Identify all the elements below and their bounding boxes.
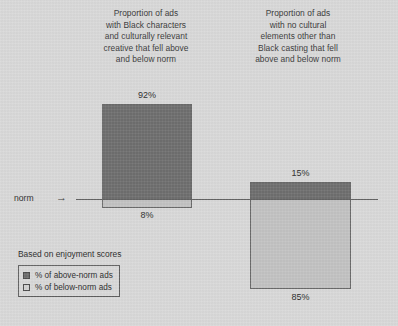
column-title-left-line-4: creative that fell above — [77, 43, 215, 55]
column-title-right: Proportion of ads with no cultural eleme… — [230, 8, 366, 66]
bar-left-below-norm — [102, 199, 192, 208]
column-title-left-line-3: and culturally relevant — [77, 31, 215, 43]
column-title-right-line-2: with no cultural — [230, 20, 366, 32]
bar-left-above-norm — [102, 104, 192, 200]
arrow-right-icon: → — [56, 191, 67, 203]
footnote: Based on enjoyment scores — [18, 249, 121, 259]
column-title-left: Proportion of ads with Black characters … — [77, 8, 215, 66]
column-title-right-line-1: Proportion of ads — [230, 8, 366, 20]
value-label-right-above-norm: 15% — [250, 168, 351, 178]
value-label-left-above-norm: 92% — [102, 90, 192, 100]
norm-axis-label: norm — [14, 193, 34, 203]
legend-label-above-norm: % of above-norm ads — [35, 271, 113, 280]
bar-right-below-norm — [250, 199, 351, 289]
value-label-left-below-norm: 8% — [102, 210, 192, 220]
norm-baseline — [76, 199, 378, 200]
column-title-right-line-3: elements other than — [230, 31, 366, 43]
column-title-left-line-2: with Black characters — [77, 20, 215, 32]
value-label-right-below-norm: 85% — [250, 292, 351, 302]
column-title-left-line-5: and below norm — [77, 54, 215, 66]
column-title-left-line-1: Proportion of ads — [77, 8, 215, 20]
legend-swatch-above-norm — [23, 272, 30, 279]
legend-label-below-norm: % of below-norm ads — [35, 283, 112, 292]
legend-item-above-norm: % of above-norm ads — [23, 269, 113, 281]
legend-swatch-below-norm — [23, 284, 30, 291]
column-title-right-line-4: Black casting that fell — [230, 43, 366, 55]
legend-item-below-norm: % of below-norm ads — [23, 281, 113, 293]
legend: % of above-norm ads % of below-norm ads — [18, 265, 120, 297]
column-title-right-line-5: above and below norm — [230, 54, 366, 66]
chart-container: Proportion of ads with Black characters … — [0, 0, 398, 326]
bar-right-above-norm — [250, 182, 351, 200]
